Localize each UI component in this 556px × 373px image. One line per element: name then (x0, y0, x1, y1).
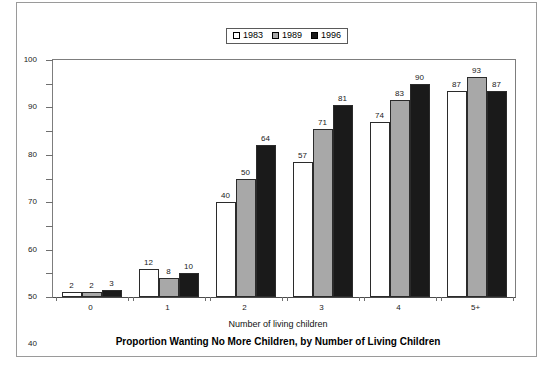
bar-1996-4[interactable]: 90 (410, 60, 430, 297)
bar-group-bars: 405064 (207, 60, 284, 297)
bar-1983-2[interactable]: 40 (216, 60, 236, 297)
x-axis-title: Number of living children (0, 319, 556, 330)
plot-area: 22312810405064577181748390879387 (53, 60, 515, 297)
legend-label: 1996 (321, 30, 341, 41)
bar-rect (390, 100, 410, 297)
y-axis-tick: 70 (46, 131, 53, 132)
legend-entry-1983[interactable]: 1983 (233, 30, 263, 41)
y-axis-tick-label: 60 (28, 246, 37, 254)
x-axis-tick (436, 297, 437, 301)
bar-1983-5+[interactable]: 87 (447, 60, 467, 297)
x-axis-tick (210, 297, 211, 301)
bar-1996-0[interactable]: 3 (102, 60, 122, 297)
bar-group-5+: 879387 (438, 60, 515, 297)
y-axis-tick-label: 100 (24, 56, 37, 64)
x-axis-tick (205, 297, 206, 301)
bar-value-label: 87 (492, 80, 501, 89)
bar-value-label: 71 (318, 118, 327, 127)
bar-1989-2[interactable]: 50 (236, 60, 256, 297)
x-axis-label-4: 4 (396, 303, 400, 312)
bar-value-label: 2 (89, 281, 93, 290)
legend-swatch-1996 (311, 32, 318, 39)
bar-rect (179, 273, 199, 297)
bar-1983-0[interactable]: 2 (62, 60, 82, 297)
y-axis-tick-label: 70 (28, 198, 37, 206)
bar-rect (447, 91, 467, 297)
bar-rect (313, 129, 333, 297)
bar-group-bars: 879387 (438, 60, 515, 297)
bar-group-bars: 748390 (361, 60, 438, 297)
bar-1989-1[interactable]: 8 (159, 60, 179, 297)
bar-1989-0[interactable]: 2 (82, 60, 102, 297)
bar-rect (333, 105, 353, 297)
bar-value-label: 64 (261, 134, 270, 143)
bar-rect (159, 278, 179, 297)
bar-1989-3[interactable]: 71 (313, 60, 333, 297)
legend-label: 1989 (282, 30, 302, 41)
y-axis-tick: 10 (46, 273, 53, 274)
bar-rect (139, 269, 159, 297)
bar-1983-3[interactable]: 57 (293, 60, 313, 297)
bar-1983-4[interactable]: 74 (370, 60, 390, 297)
bar-1996-5+[interactable]: 87 (487, 60, 507, 297)
x-axis-tick (513, 297, 514, 301)
bar-rect (216, 202, 236, 297)
x-axis-tick (133, 297, 134, 301)
bar-rect (467, 77, 487, 297)
bar-group-1: 12810 (130, 60, 207, 297)
bar-1996-2[interactable]: 64 (256, 60, 276, 297)
x-axis-label-0: 0 (88, 303, 92, 312)
y-axis-tick: 60 (46, 155, 53, 156)
legend-entry-1989[interactable]: 1989 (272, 30, 302, 41)
y-axis-tick: 20 (46, 250, 53, 251)
bar-rect (82, 292, 102, 297)
legend-entry-1996[interactable]: 1996 (311, 30, 341, 41)
plot-frame: 0102030405060708090100 22312810405064577… (52, 59, 516, 298)
bar-1983-1[interactable]: 12 (139, 60, 159, 297)
bar-group-4: 748390 (361, 60, 438, 297)
y-axis-tick: 90 (46, 84, 53, 85)
y-axis-tick-label: 50 (28, 293, 37, 301)
legend-swatch-1989 (272, 32, 279, 39)
y-axis-tick: 100 (46, 60, 53, 61)
bar-value-label: 2 (69, 281, 73, 290)
bar-rect (410, 84, 430, 297)
chart-title: Proportion Wanting No More Children, by … (0, 336, 556, 348)
x-axis-label-2: 2 (242, 303, 246, 312)
bar-rect (487, 91, 507, 297)
y-axis-tick: 50 (46, 179, 53, 180)
bar-value-label: 74 (375, 111, 384, 120)
bar-value-label: 57 (298, 151, 307, 160)
y-axis-tick: 0 (46, 297, 53, 298)
bar-value-label: 83 (395, 89, 404, 98)
bar-value-label: 90 (415, 73, 424, 82)
chart-page: 198319891996 0102030405060708090100 2231… (0, 0, 556, 373)
x-axis-tick (282, 297, 283, 301)
y-axis-tick: 80 (46, 107, 53, 108)
bar-group-bars: 223 (53, 60, 130, 297)
bar-1996-1[interactable]: 10 (179, 60, 199, 297)
bar-rect (236, 179, 256, 298)
bar-1989-4[interactable]: 83 (390, 60, 410, 297)
x-axis-tick (359, 297, 360, 301)
y-axis-tick: 40 (46, 202, 53, 203)
bar-value-label: 87 (452, 80, 461, 89)
chart-legend: 198319891996 (226, 28, 348, 44)
bar-value-label: 81 (338, 94, 347, 103)
bar-value-label: 3 (109, 279, 113, 288)
x-axis-label-1: 1 (165, 303, 169, 312)
bar-rect (256, 145, 276, 297)
x-axis-tick (56, 297, 57, 301)
bar-value-label: 40 (221, 191, 230, 200)
bar-1989-5+[interactable]: 93 (467, 60, 487, 297)
bar-value-label: 93 (472, 66, 481, 75)
bar-value-label: 50 (241, 168, 250, 177)
bar-value-label: 12 (144, 258, 153, 267)
bar-1996-3[interactable]: 81 (333, 60, 353, 297)
bar-group-3: 577181 (284, 60, 361, 297)
bar-value-label: 8 (166, 267, 170, 276)
x-axis-tick (441, 297, 442, 301)
bar-group-bars: 577181 (284, 60, 361, 297)
bar-rect (62, 292, 82, 297)
bar-group-2: 405064 (207, 60, 284, 297)
